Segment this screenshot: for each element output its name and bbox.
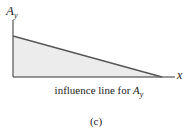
- y-axis-label: Ay: [6, 3, 18, 20]
- y-axis-label-sub: y: [14, 11, 18, 20]
- y-axis-label-main: A: [6, 3, 14, 18]
- figure-caption: influence line for Ay: [0, 84, 192, 99]
- caption-var-main: A: [133, 84, 140, 96]
- caption-text: influence line for: [55, 84, 134, 96]
- caption-var-sub: y: [140, 90, 144, 99]
- panel-label: (c): [0, 115, 192, 127]
- x-axis-label: x: [177, 68, 182, 83]
